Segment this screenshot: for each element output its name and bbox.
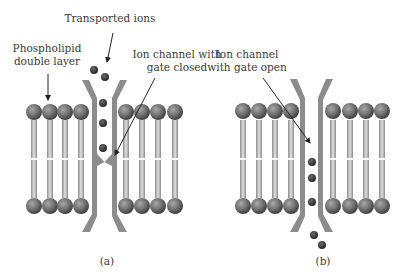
phospholipid-tails-left-b <box>240 120 294 198</box>
label-channel-open-line1: Ion channel <box>216 48 279 60</box>
phospholipid-tails-left-a <box>31 120 84 198</box>
closed-gate <box>97 154 105 166</box>
label-channel-open-line2: with gate open <box>207 61 287 73</box>
arrow-ions <box>107 33 113 62</box>
panel-b: Ion channel with gate open (b) <box>207 48 390 267</box>
label-transported-ions: Transported ions <box>65 12 156 24</box>
phospholipid-tails-right-a <box>123 120 178 198</box>
label-channel-closed-line1: Ion channel with <box>132 48 221 60</box>
label-bilayer-line2: double layer <box>14 55 81 67</box>
ion-channel-diagram: Transported ions Phospholipid double lay… <box>0 0 409 278</box>
panel-a: Transported ions Phospholipid double lay… <box>13 12 222 267</box>
label-channel-closed-line2: gate closed <box>147 61 208 73</box>
label-bilayer-line1: Phospholipid <box>13 42 82 54</box>
ions-b <box>308 158 326 249</box>
caption-a: (a) <box>100 255 114 267</box>
caption-b: (b) <box>316 255 331 267</box>
phospholipid-tails-right-b <box>330 120 385 198</box>
